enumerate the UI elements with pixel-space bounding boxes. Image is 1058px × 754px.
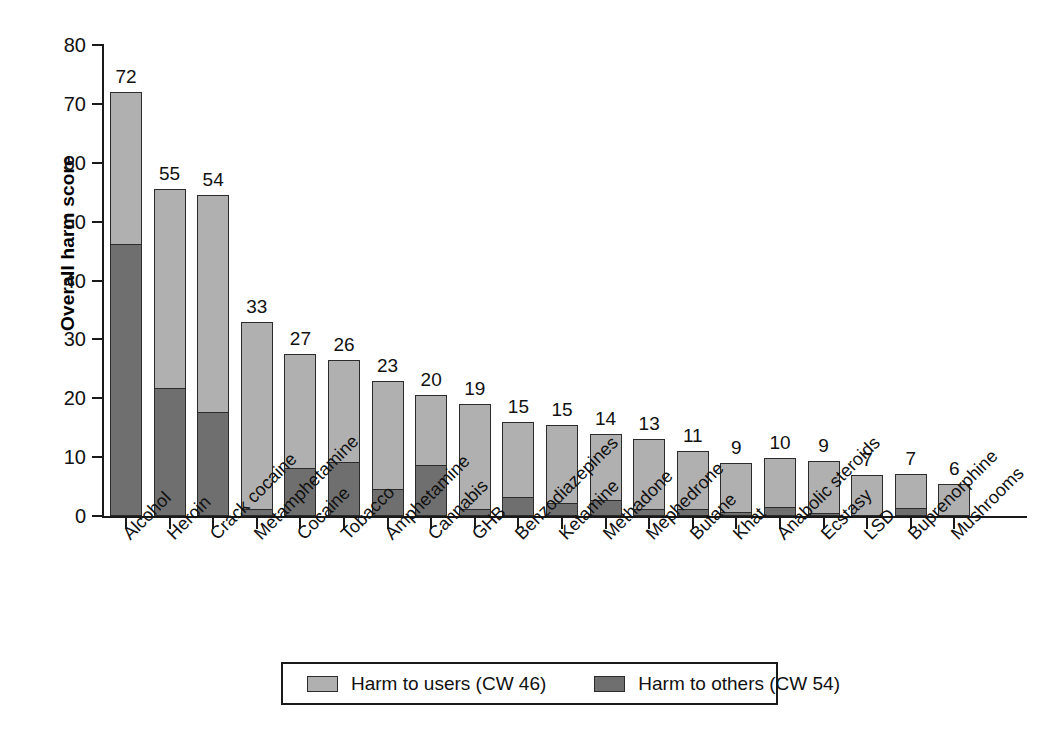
bar-group[interactable]: 13 <box>633 45 665 516</box>
y-axis-tick <box>92 338 103 340</box>
legend-swatch-light-icon <box>307 676 338 692</box>
bar-group[interactable]: 15 <box>546 45 578 516</box>
bar-segment-harm-to-others[interactable] <box>111 244 141 515</box>
legend-swatch-dark-icon <box>594 676 625 692</box>
y-axis-tick-label: 70 <box>40 94 86 114</box>
bar-value-label: 15 <box>551 400 572 419</box>
y-axis-tick-label: 80 <box>40 35 86 55</box>
bar-value-label: 55 <box>159 164 180 183</box>
bar-group[interactable]: 20 <box>415 45 447 516</box>
bar-value-label: 20 <box>421 370 442 389</box>
legend-item-harm-to-users: Harm to users (CW 46) <box>307 674 546 693</box>
bar-group[interactable]: 33 <box>241 45 273 516</box>
bar-value-label: 54 <box>203 170 224 189</box>
bar-value-label: 14 <box>595 409 616 428</box>
bar-group[interactable]: 54 <box>197 45 229 516</box>
bar-value-label: 26 <box>333 335 354 354</box>
y-axis-tick-label: 50 <box>40 212 86 232</box>
bar-group[interactable]: 55 <box>154 45 186 516</box>
y-axis-tick-label: 40 <box>40 271 86 291</box>
bar-value-label: 10 <box>769 433 790 452</box>
bar-value-label: 19 <box>464 379 485 398</box>
y-axis-tick <box>92 397 103 399</box>
y-axis-tick-label: 20 <box>40 388 86 408</box>
bar-value-label: 23 <box>377 356 398 375</box>
bar-segment-harm-to-users[interactable] <box>154 189 186 516</box>
y-axis-tick-label: 60 <box>40 153 86 173</box>
bar-value-label: 11 <box>683 426 703 445</box>
bar-group[interactable]: 11 <box>677 45 709 516</box>
bar-group[interactable]: 23 <box>372 45 404 516</box>
bar-group[interactable]: 10 <box>764 45 796 516</box>
bar-group[interactable]: 27 <box>284 45 316 516</box>
legend-label-harm-to-users: Harm to users (CW 46) <box>351 674 546 693</box>
y-axis-tick-label: 10 <box>40 447 86 467</box>
bar-group[interactable]: 6 <box>938 45 970 516</box>
bar-value-label: 9 <box>731 438 742 457</box>
bar-value-label: 13 <box>639 414 660 433</box>
bar-group[interactable]: 9 <box>720 45 752 516</box>
bar-group[interactable]: 7 <box>895 45 927 516</box>
y-axis-tick <box>92 44 103 46</box>
y-axis-tick-label: 0 <box>40 506 86 526</box>
bar-segment-harm-to-users[interactable] <box>502 422 534 516</box>
bar-segment-harm-to-users[interactable] <box>110 92 142 516</box>
y-axis-tick-label: 30 <box>40 329 86 349</box>
bar-value-label: 27 <box>290 329 311 348</box>
y-axis-tick <box>92 280 103 282</box>
bar-value-label: 7 <box>906 449 917 468</box>
y-axis-tick <box>92 456 103 458</box>
legend-label-harm-to-others: Harm to others (CW 54) <box>638 674 840 693</box>
y-axis-tick <box>92 162 103 164</box>
bar-value-label: 15 <box>508 397 529 416</box>
y-axis-tick <box>92 515 103 517</box>
bar-value-label: 72 <box>115 67 136 86</box>
chart-legend: Harm to users (CW 46) Harm to others (CW… <box>281 662 778 705</box>
bar-series-container: 72555433272623201915151413119109776 <box>103 45 1028 516</box>
y-axis-tick <box>92 221 103 223</box>
y-axis-tick <box>92 103 103 105</box>
bar-group[interactable]: 9 <box>808 45 840 516</box>
bar-group[interactable]: 15 <box>502 45 534 516</box>
bar-segment-harm-to-users[interactable] <box>764 458 796 516</box>
chart-page: Overall harm score 01020304050607080 725… <box>0 0 1058 754</box>
bar-group[interactable]: 72 <box>110 45 142 516</box>
bar-value-label: 9 <box>818 436 829 455</box>
bar-group[interactable]: 19 <box>459 45 491 516</box>
bar-segment-harm-to-users[interactable] <box>197 195 229 516</box>
legend-item-harm-to-others: Harm to others (CW 54) <box>594 674 840 693</box>
bar-value-label: 33 <box>246 297 267 316</box>
